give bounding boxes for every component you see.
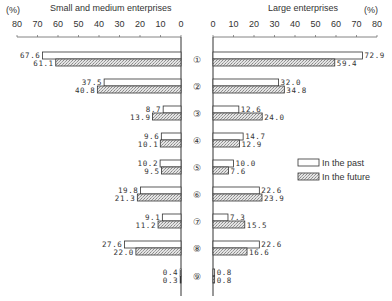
left-bar-future (56, 59, 181, 66)
right-tick-label: 80 (372, 19, 382, 29)
left-bar-past (180, 269, 181, 276)
butterfly-bar-chart: (%) Small and medium enterprises Large e… (0, 0, 392, 301)
left-tick-label: 0 (178, 19, 183, 29)
left-value-future: 22.0 (113, 248, 133, 257)
left-tick-label: 60 (53, 19, 63, 29)
right-chart-title: Large enterprises (268, 3, 339, 13)
right-bar-past (213, 214, 228, 221)
left-tick-label: 20 (135, 19, 145, 29)
left-tick-label: 10 (155, 19, 165, 29)
right-tick-label: 10 (228, 19, 238, 29)
right-bar-future (213, 59, 335, 66)
category-marker: ⑥ (193, 190, 201, 200)
right-tick-label: 50 (310, 19, 320, 29)
right-bar-future (213, 113, 262, 120)
left-bar-past (163, 106, 181, 113)
left-chart-title: Small and medium enterprises (50, 3, 172, 13)
left-bar-future (153, 113, 181, 120)
right-bar-future (213, 276, 215, 283)
right-bar-past (213, 133, 243, 140)
right-bar-past (213, 269, 215, 276)
right-bar-future (213, 140, 239, 147)
right-tick-label: 20 (249, 19, 259, 29)
left-value-future: 13.9 (130, 113, 150, 122)
right-bar-past (213, 187, 259, 194)
category-marker: ⑦ (193, 217, 201, 227)
category-marker: ⑨ (193, 272, 201, 282)
left-tick-label: 40 (94, 19, 104, 29)
left-bar-future (137, 194, 181, 201)
right-tick-label: 70 (351, 19, 361, 29)
legend-swatch-future (298, 173, 319, 180)
right-bar-future (213, 248, 247, 255)
left-tick-label: 50 (73, 19, 83, 29)
left-tick-label: 30 (114, 19, 124, 29)
category-marker: ③ (193, 109, 201, 119)
right-value-future: 24.0 (264, 113, 284, 122)
right-value-future: 7.6 (231, 167, 246, 176)
left-value-future: 11.2 (136, 221, 156, 230)
left-bar-past (42, 52, 181, 59)
left-bar-past (161, 133, 181, 140)
left-bar-future (180, 276, 181, 283)
bars-group: 67.661.172.959.437.540.832.034.88.713.91… (20, 51, 385, 285)
right-bar-future (213, 167, 229, 174)
right-value-future: 23.9 (264, 194, 284, 203)
left-bar-past (140, 187, 181, 194)
right-value-future: 16.6 (249, 248, 269, 257)
legend-label-future: In the future (322, 172, 370, 182)
right-bar-future (213, 86, 284, 93)
right-tick-label: 30 (269, 19, 279, 29)
left-value-future: 9.5 (144, 167, 159, 176)
legend-label-past: In the past (322, 158, 365, 168)
right-unit-label: (%) (364, 5, 378, 15)
left-bar-future (160, 140, 181, 147)
left-value-future: 21.3 (115, 194, 135, 203)
left-bar-past (162, 214, 181, 221)
left-tick-label: 70 (32, 19, 42, 29)
legend-swatch-past (298, 159, 319, 166)
category-marker: ⑧ (193, 244, 201, 254)
category-marker: ② (193, 82, 201, 92)
category-marker: ⑤ (193, 163, 201, 173)
left-value-future: 40.8 (75, 86, 95, 95)
right-value-past: 72.9 (364, 51, 384, 60)
right-value-future: 59.4 (337, 59, 357, 68)
right-tick-label: 0 (210, 19, 215, 29)
left-bar-future (158, 221, 181, 228)
category-marker: ④ (193, 136, 201, 146)
left-bar-future (136, 248, 181, 255)
right-bar-future (213, 194, 262, 201)
right-value-future: 34.8 (286, 86, 306, 95)
left-axis-ticks: 80706050403020100 (12, 19, 184, 37)
right-value-future: 15.5 (247, 221, 267, 230)
left-bar-future (97, 86, 181, 93)
left-unit-label: (%) (6, 5, 20, 15)
left-bar-future (162, 167, 181, 174)
left-value-future: 0.3 (163, 276, 178, 285)
left-bar-past (160, 160, 181, 167)
category-markers: ①②③④⑤⑥⑦⑧⑨ (193, 55, 201, 282)
right-tick-label: 40 (290, 19, 300, 29)
right-value-future: 0.8 (217, 276, 232, 285)
right-value-future: 12.9 (241, 140, 261, 149)
legend: In the past In the future (298, 158, 370, 182)
right-bar-past (213, 79, 279, 86)
left-value-future: 61.1 (33, 59, 53, 68)
category-marker: ① (193, 55, 201, 65)
right-tick-label: 60 (331, 19, 341, 29)
right-axis-ticks: 01020304050607080 (210, 19, 382, 37)
right-bar-past (213, 106, 239, 113)
left-tick-label: 80 (12, 19, 22, 29)
left-value-future: 10.1 (138, 140, 158, 149)
right-bar-future (213, 221, 245, 228)
left-bar-past (104, 79, 181, 86)
